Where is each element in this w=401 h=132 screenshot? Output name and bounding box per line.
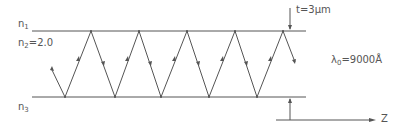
- label-thickness: t=3μm: [296, 4, 331, 15]
- label-n3: n3: [18, 101, 29, 114]
- label-wavelength: λ0=9000Å: [331, 54, 382, 67]
- zigzag-ray-path: [52, 31, 295, 97]
- arrowheads: [50, 25, 376, 122]
- label-n1: n1: [18, 18, 29, 31]
- label-z-axis: Z: [381, 113, 388, 124]
- label-n2: n2=2.0: [18, 37, 53, 50]
